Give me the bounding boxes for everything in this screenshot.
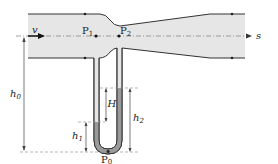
wall-marker (231, 57, 234, 60)
wall-marker (84, 13, 87, 16)
velocity-label: v (32, 24, 38, 35)
point-p1 (94, 34, 97, 37)
dim-arrow-icon (22, 146, 25, 151)
dim-arrow-icon (85, 122, 88, 126)
wall-marker (231, 13, 234, 16)
label-p0: P0 (101, 154, 112, 164)
axis-label-s: s (256, 30, 261, 41)
wall-marker (84, 57, 87, 60)
label-h2: h2 (133, 112, 144, 125)
dim-arrow-icon (105, 88, 108, 92)
dim-arrow-icon (22, 37, 25, 42)
axis-arrow-icon (246, 34, 252, 39)
label-h0: h0 (10, 88, 21, 101)
label-h1: h1 (72, 130, 83, 143)
point-p0 (107, 150, 110, 153)
dim-arrow-icon (85, 148, 88, 152)
venturi-diagram: s v P1 P2 P0 h0 h1 H h2 (0, 0, 278, 164)
dim-arrow-icon (105, 118, 108, 122)
tube-right-interior (118, 48, 122, 88)
tube-left-interior (95, 58, 99, 122)
label-H: H (107, 98, 117, 109)
dim-arrow-icon (129, 148, 132, 152)
dim-arrow-icon (129, 88, 132, 92)
